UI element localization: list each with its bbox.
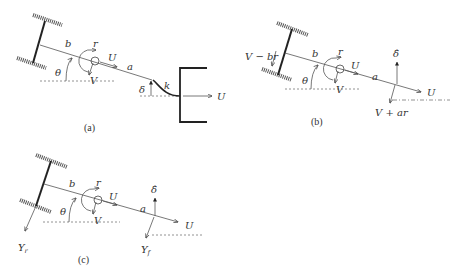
label-b: b	[312, 48, 318, 59]
label-V: V	[336, 84, 345, 95]
caption-b: (b)	[311, 116, 323, 128]
rear-wheel-top	[36, 155, 67, 167]
label-delta-hat: δ̂	[393, 48, 399, 59]
label-U-front: U	[185, 220, 194, 231]
rear-lateral-force-arrow	[25, 206, 36, 231]
heading-angle-arc	[69, 198, 76, 222]
Y-r-subscript: r	[25, 247, 29, 255]
label-Y-f: Yf	[141, 244, 152, 257]
label-U-front: U	[427, 87, 436, 98]
label-theta: θ	[302, 75, 308, 86]
heading-angle-arc	[66, 58, 72, 81]
label-U: U	[351, 60, 360, 71]
trailer-bracket	[180, 68, 207, 122]
label-a: a	[127, 61, 133, 72]
label-k: k	[164, 80, 170, 91]
yaw-rate-arrow	[81, 188, 99, 211]
lateral-velocity-arrow-V	[89, 63, 93, 75]
label-b: b	[69, 178, 75, 189]
label-U-trailer: U	[217, 91, 226, 102]
lateral-velocity-arrow-V	[335, 71, 338, 83]
rear-wheel-bottom	[17, 58, 46, 68]
label-r: r	[93, 38, 99, 49]
label-r: r	[338, 46, 344, 57]
heading-angle-arc	[311, 65, 318, 89]
panel-b: V − br b r U a θ V δ̂ U V + ar (b)	[245, 23, 450, 128]
label-U: U	[109, 191, 118, 202]
Y-f-subscript: f	[147, 249, 152, 257]
label-a: a	[372, 71, 378, 82]
caption-c: (c)	[78, 254, 89, 266]
label-V-plus-ar: V + ar	[375, 107, 409, 118]
rear-wheel-top	[277, 23, 308, 35]
rear-axle	[278, 29, 292, 75]
panel-a: b r U a θ V δ k U (a)	[17, 15, 226, 134]
rear-wheel-bottom	[20, 200, 51, 212]
label-r: r	[96, 177, 102, 188]
label-V: V	[94, 215, 103, 226]
label-theta: θ	[55, 67, 61, 78]
vehicle-dynamics-diagram: b r U a θ V δ k U (a) V − br b r U a θ V…	[0, 0, 455, 274]
rear-wheel-bottom	[262, 69, 292, 80]
label-delta-hat: δ̂	[151, 184, 157, 195]
label-U: U	[108, 52, 117, 63]
label-b: b	[65, 38, 71, 49]
label-a: a	[140, 203, 146, 214]
yaw-rate-arrow	[79, 50, 96, 72]
rear-wheel-top	[33, 15, 62, 25]
label-theta: θ	[60, 206, 66, 217]
label-delta: δ	[139, 84, 145, 95]
rear-axle	[36, 161, 51, 206]
label-V-minus-br: V − br	[245, 51, 279, 62]
panel-c: b r U a θ V δ̂ U Yr Yf (c)	[18, 155, 203, 266]
caption-a: (a)	[84, 122, 95, 134]
rear-axle	[33, 21, 45, 63]
label-Y-r: Yr	[18, 242, 29, 255]
label-V: V	[90, 75, 99, 86]
lateral-velocity-arrow-V	[93, 202, 96, 214]
